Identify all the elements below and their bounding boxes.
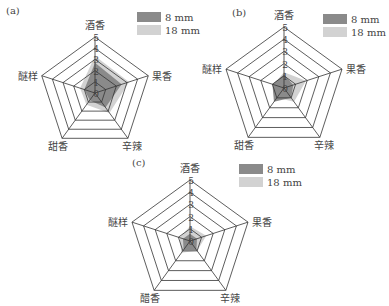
radar-panel-a: 012345酒香果香辛辣甜香醚样(a)8 mm18 mm [6,5,200,152]
scale-tick-label: 2 [93,67,99,77]
category-label: 醚样 [108,216,128,228]
scale-tick-label: 0 [188,237,194,247]
scale-tick-label: 3 [93,55,99,65]
legend-label: 8 mm [267,164,296,175]
axis-spoke [226,69,284,88]
category-label: 醋香 [140,292,160,304]
radar-panel-b: 012345酒香果香辛辣甜香醚样(b)8 mm18 mm [202,7,386,151]
scale-tick-label: 5 [282,23,288,33]
legend-label: 8 mm [165,12,194,23]
scale-tick-label: 4 [188,188,194,198]
category-label: 酒香 [180,163,200,174]
scale-tick-label: 1 [282,72,288,82]
category-label: 醚样 [202,63,222,75]
category-label: 果香 [346,64,366,75]
scale-tick-label: 3 [282,47,288,57]
category-label: 果香 [252,217,272,228]
panel-label: (a) [6,5,20,16]
radar-panel-c: 012345酒香果香辛辣醋香醚样(c)8 mm18 mm [108,157,302,304]
category-label: 醚样 [18,70,38,82]
scale-tick-label: 0 [282,84,288,94]
axis-spoke [284,88,320,137]
radar-chart-figure: 012345酒香果香辛辣甜香醚样(a)8 mm18 mm012345酒香果香辛辣… [0,0,389,306]
legend-swatch [239,177,263,187]
legend: 8 mm18 mm [239,164,302,188]
axis-spoke [132,222,190,241]
legend-swatch [137,12,161,22]
category-label: 果香 [152,71,172,82]
scale-tick-label: 1 [188,225,194,235]
panel-label: (b) [232,7,246,18]
legend-swatch [137,25,161,35]
category-label: 辛辣 [314,139,334,151]
axis-spoke [154,241,190,290]
category-label: 酒香 [274,10,294,21]
legend-label: 18 mm [267,177,302,188]
category-label: 酒香 [85,20,105,31]
legend-label: 18 mm [165,25,200,36]
axis-spoke [190,241,226,290]
scale-tick-label: 0 [93,89,99,99]
scale-tick-label: 2 [282,60,288,70]
scale-tick-label: 2 [188,213,194,223]
category-label: 辛辣 [220,292,240,304]
legend: 8 mm18 mm [137,12,200,36]
panel-label: (c) [132,157,146,168]
legend-label: 8 mm [351,14,380,25]
legend: 8 mm18 mm [323,14,386,38]
radar-charts-svg: 012345酒香果香辛辣甜香醚样(a)8 mm18 mm012345酒香果香辛辣… [0,0,389,306]
scale-tick-label: 4 [93,44,99,54]
scale-tick-label: 3 [188,200,194,210]
category-label: 辛辣 [122,140,142,152]
scale-tick-label: 1 [93,78,99,88]
legend-swatch [323,14,347,24]
scale-tick-label: 5 [93,33,99,43]
legend-swatch [323,27,347,37]
scale-tick-label: 5 [188,176,194,186]
category-label: 甜香 [234,139,254,151]
category-label: 甜香 [48,140,68,152]
legend-swatch [239,164,263,174]
scale-tick-label: 4 [282,35,288,45]
legend-label: 18 mm [351,27,386,38]
axis-spoke [248,88,284,137]
